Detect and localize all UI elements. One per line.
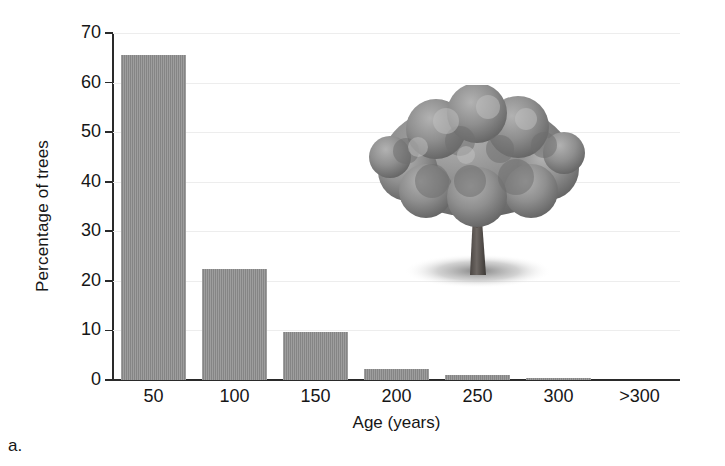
bar: [121, 55, 186, 380]
bar: [445, 375, 510, 380]
gridline: [113, 83, 680, 84]
y-axis-title: Percentage of trees: [33, 111, 53, 321]
plot-area: 010203040506070 50100150200250300>300: [113, 33, 680, 380]
y-axis-tick-mark: [105, 230, 113, 232]
gridline: [113, 33, 680, 34]
y-axis-tick-mark: [105, 82, 113, 84]
y-axis-tick-mark: [105, 379, 113, 381]
y-axis-tick-label: 70: [81, 22, 101, 43]
x-axis-tick-label: 50: [143, 386, 163, 407]
gridline: [113, 182, 680, 183]
tree-illustration-icon: [366, 85, 588, 295]
x-axis-tick-label: 300: [543, 386, 573, 407]
y-axis-tick-label: 60: [81, 72, 101, 93]
y-axis-tick-mark: [105, 181, 113, 183]
y-axis-tick-label: 30: [81, 221, 101, 242]
y-axis-tick-mark: [105, 32, 113, 34]
y-axis-tick-mark: [105, 280, 113, 282]
x-axis-tick-label: 100: [219, 386, 249, 407]
x-axis-tick-label: >300: [619, 386, 660, 407]
bar: [364, 369, 429, 380]
y-axis-tick-label: 10: [81, 320, 101, 341]
y-axis-tick-mark: [105, 330, 113, 332]
x-axis-tick-label: 250: [462, 386, 492, 407]
y-axis-tick-label: 50: [81, 121, 101, 142]
figure-panel-a: Percentage of trees 010203040506070 5010…: [0, 0, 725, 466]
gridline: [113, 231, 680, 232]
gridline: [113, 281, 680, 282]
y-axis-tick-mark: [105, 131, 113, 133]
x-axis-tick-label: 150: [300, 386, 330, 407]
panel-label: a.: [8, 436, 22, 456]
bar: [283, 332, 348, 380]
y-axis-tick-label: 20: [81, 270, 101, 291]
x-axis-tick-label: 200: [381, 386, 411, 407]
y-axis-tick-label: 40: [81, 171, 101, 192]
x-axis-title: Age (years): [113, 413, 680, 433]
y-axis-tick-label: 0: [91, 369, 101, 390]
gridline: [113, 330, 680, 331]
bar: [202, 269, 267, 380]
gridline: [113, 132, 680, 133]
bar: [526, 378, 591, 380]
